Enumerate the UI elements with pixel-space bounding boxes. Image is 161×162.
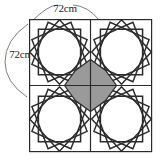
left-dimension-arc (5, 24, 28, 97)
top-dimension-arc-right (73, 5, 99, 20)
figure-canvas: 72cm 72cm (0, 0, 161, 162)
top-dimension-label: 72cm (53, 2, 77, 14)
geometry-figure: 72cm 72cm (0, 0, 161, 162)
